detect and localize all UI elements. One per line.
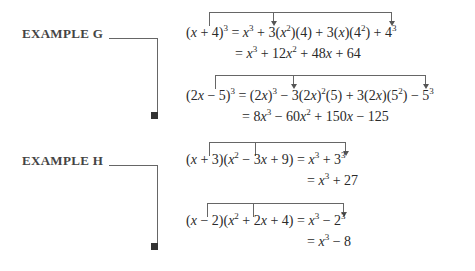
- bracket-top: [209, 12, 392, 13]
- equation-result: = 8x3 − 60x2 + 150x − 125: [242, 110, 389, 124]
- equation-line: (x − 2)(x2 + 2x + 4) = x3 − 23: [186, 214, 346, 228]
- equation-result: = x3 + 12x2 + 48x + 64: [235, 47, 361, 61]
- label-vertical-line: [157, 38, 158, 116]
- equation-line: (x + 3)(x2 − 3x + 9) = x3 + 33: [186, 153, 346, 167]
- example-h-label: EXAMPLE H: [22, 153, 103, 169]
- end-marker-icon: [151, 112, 158, 119]
- bracket-top: [215, 75, 426, 76]
- equation-result: = x3 + 27: [307, 174, 358, 188]
- equation-line: (2x − 5)3 = (2x)3 − 3(2x)2(5) + 3(2x)(52…: [186, 89, 434, 103]
- bracket-top: [207, 203, 344, 204]
- bracket-top: [209, 142, 346, 143]
- label-leader-line: [109, 38, 158, 39]
- bracket-leg: [209, 12, 210, 26]
- bracket-leg: [215, 75, 216, 89]
- example-g-label: EXAMPLE G: [22, 26, 103, 42]
- label-leader-line: [109, 165, 158, 166]
- label-vertical-line: [157, 165, 158, 247]
- equation-line: (x + 4)3 = x3 + 3(x2)(4) + 3(x)(42) + 43: [186, 26, 397, 40]
- end-marker-icon: [151, 243, 158, 250]
- equation-result: = x3 − 8: [307, 235, 351, 249]
